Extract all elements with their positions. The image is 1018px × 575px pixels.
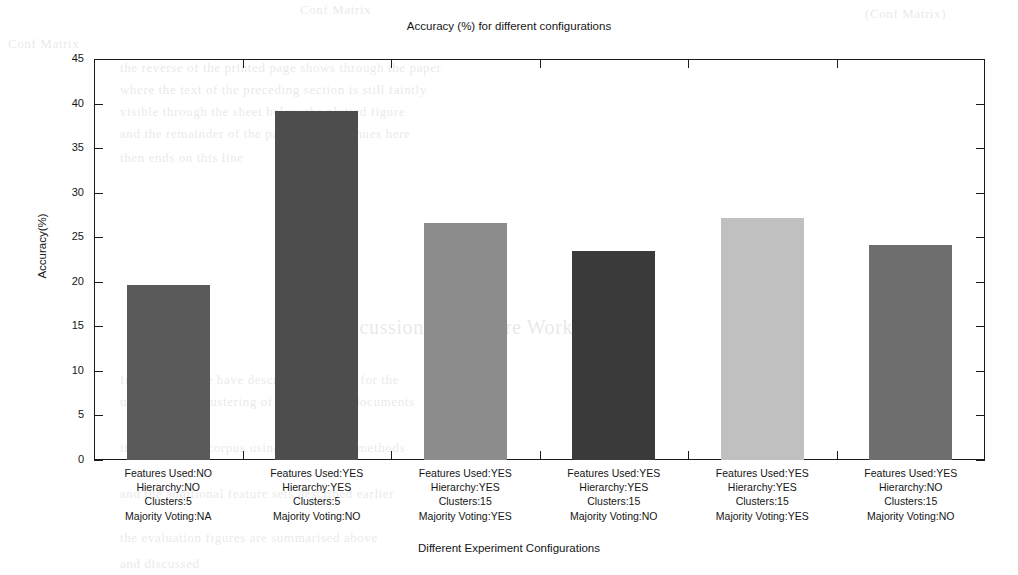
y-tick-label: 5 bbox=[44, 408, 84, 420]
x-category-label-3: Features Used:YESHierarchy:YESClusters:1… bbox=[391, 466, 540, 523]
x-category-line: Clusters:15 bbox=[391, 494, 540, 508]
x-category-line: Features Used:NO bbox=[94, 466, 243, 480]
x-category-line: Clusters:15 bbox=[837, 494, 986, 508]
x-category-line: Features Used:YES bbox=[391, 466, 540, 480]
y-tick-label: 45 bbox=[44, 52, 84, 64]
y-tick-label: 10 bbox=[44, 364, 84, 376]
x-category-label-6: Features Used:YESHierarchy:NOClusters:15… bbox=[837, 466, 986, 523]
x-category-line: Hierarchy:YES bbox=[391, 480, 540, 494]
bar-1 bbox=[127, 285, 210, 460]
bar-2 bbox=[275, 111, 358, 460]
y-tick-label: 15 bbox=[44, 319, 84, 331]
x-category-line: Hierarchy:YES bbox=[540, 480, 689, 494]
chart-title: Accuracy (%) for different configuration… bbox=[0, 20, 1018, 32]
x-category-line: Majority Voting:NO bbox=[837, 509, 986, 523]
x-category-line: Majority Voting:YES bbox=[688, 509, 837, 523]
y-tick-label: 20 bbox=[44, 275, 84, 287]
x-category-line: Clusters:5 bbox=[243, 494, 392, 508]
y-tick-label: 0 bbox=[44, 453, 84, 465]
x-category-line: Features Used:YES bbox=[540, 466, 689, 480]
x-category-line: Hierarchy:YES bbox=[688, 480, 837, 494]
x-category-label-1: Features Used:NOHierarchy:NOClusters:5Ma… bbox=[94, 466, 243, 523]
bar-3 bbox=[424, 223, 507, 460]
y-tick-left bbox=[94, 460, 103, 461]
y-tick-label: 35 bbox=[44, 141, 84, 153]
bar-5 bbox=[721, 218, 804, 460]
x-category-line: Clusters:15 bbox=[688, 494, 837, 508]
x-category-line: Majority Voting:NO bbox=[243, 509, 392, 523]
bar-chart-figure: Accuracy (%) for different configuration… bbox=[0, 0, 1018, 575]
x-category-line: Hierarchy:YES bbox=[243, 480, 392, 494]
y-tick-label: 25 bbox=[44, 230, 84, 242]
x-category-line: Majority Voting:YES bbox=[391, 509, 540, 523]
x-category-line: Hierarchy:NO bbox=[837, 480, 986, 494]
bar-4 bbox=[572, 251, 655, 460]
y-tick-label: 30 bbox=[44, 186, 84, 198]
bar-6 bbox=[869, 245, 952, 460]
y-tick-right bbox=[976, 460, 985, 461]
x-category-line: Features Used:YES bbox=[243, 466, 392, 480]
x-category-line: Clusters:5 bbox=[94, 494, 243, 508]
x-category-line: Features Used:YES bbox=[837, 466, 986, 480]
bars-container bbox=[94, 59, 985, 460]
x-category-line: Majority Voting:NA bbox=[94, 509, 243, 523]
x-category-label-5: Features Used:YESHierarchy:YESClusters:1… bbox=[688, 466, 837, 523]
x-axis-title: Different Experiment Configurations bbox=[0, 542, 1018, 554]
x-category-line: Majority Voting:NO bbox=[540, 509, 689, 523]
x-category-label-4: Features Used:YESHierarchy:YESClusters:1… bbox=[540, 466, 689, 523]
y-tick-label: 40 bbox=[44, 97, 84, 109]
x-category-line: Clusters:15 bbox=[540, 494, 689, 508]
x-category-line: Features Used:YES bbox=[688, 466, 837, 480]
x-category-label-2: Features Used:YESHierarchy:YESClusters:5… bbox=[243, 466, 392, 523]
x-category-line: Hierarchy:NO bbox=[94, 480, 243, 494]
y-axis-title: Accuracy(%) bbox=[36, 186, 48, 306]
